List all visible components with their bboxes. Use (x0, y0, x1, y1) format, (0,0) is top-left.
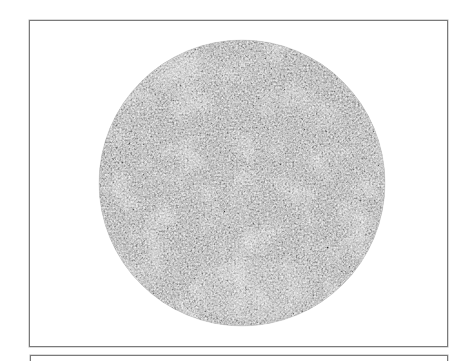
scanned-figure (0, 0, 461, 361)
next-figure-panel-frame (30, 355, 448, 361)
figure-panel-frame (29, 20, 448, 347)
